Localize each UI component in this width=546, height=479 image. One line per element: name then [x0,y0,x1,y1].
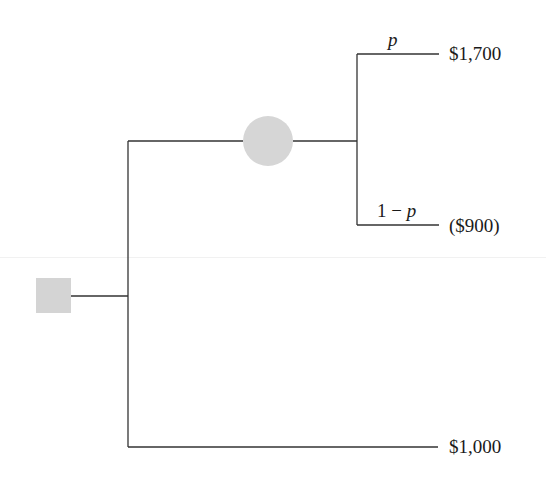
middle-probability-var: p [407,200,417,221]
chance-node-circle [243,116,293,166]
middle-outcome-value: ($900) [449,216,500,235]
bottom-outcome-value: $1,000 [449,437,501,456]
decision-tree-diagram [0,0,546,479]
middle-probability-prefix: 1 − [377,200,407,221]
top-outcome-value: $1,700 [449,44,501,63]
middle-probability-label: 1 − p [377,201,416,220]
decision-node-square [36,278,71,313]
top-probability-label: p [388,30,398,49]
